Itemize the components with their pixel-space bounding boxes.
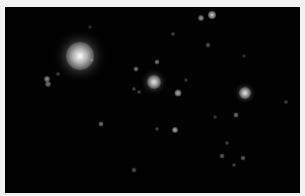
star bbox=[206, 43, 211, 48]
star bbox=[198, 15, 204, 21]
star bbox=[137, 90, 141, 94]
star bbox=[213, 115, 217, 119]
star bbox=[132, 87, 136, 91]
star bbox=[88, 25, 92, 29]
star bbox=[220, 154, 225, 159]
star bbox=[208, 11, 216, 19]
star bbox=[45, 81, 51, 87]
star bbox=[155, 127, 159, 131]
star bbox=[90, 58, 94, 62]
star bbox=[241, 156, 246, 161]
star bbox=[147, 75, 161, 89]
star bbox=[171, 32, 175, 36]
star bbox=[242, 54, 246, 58]
star bbox=[99, 122, 104, 127]
star bbox=[134, 67, 139, 72]
star bbox=[225, 141, 229, 145]
star bbox=[284, 100, 288, 104]
star bbox=[132, 168, 137, 173]
star-field-image bbox=[5, 7, 300, 193]
star bbox=[184, 78, 188, 82]
star bbox=[234, 113, 239, 118]
star bbox=[232, 163, 236, 167]
star bbox=[172, 127, 178, 133]
star bbox=[175, 90, 182, 97]
star bbox=[155, 60, 160, 65]
star bbox=[239, 87, 251, 99]
star bbox=[56, 72, 60, 76]
star bbox=[66, 42, 94, 70]
